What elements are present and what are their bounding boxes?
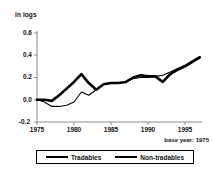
legend-label-non-tradables: Non-tradables	[140, 154, 184, 161]
legend-swatch-thin-icon	[115, 156, 137, 157]
legend-item-non-tradables: Non-tradables	[115, 154, 184, 161]
legend-item-tradables: Tradables	[46, 154, 101, 161]
legend-label-tradables: Tradables	[71, 154, 101, 161]
series-line-tradables	[37, 57, 200, 100]
series-line-non-tradables	[37, 56, 200, 106]
legend-swatch-thick-icon	[46, 156, 68, 159]
plot-area	[0, 0, 213, 170]
chart-container: in logs 0.6 0.4 0.2 0.0 -0.2 1975 1980 1…	[0, 0, 213, 170]
chart-legend: Tradables Non-tradables	[36, 150, 194, 164]
